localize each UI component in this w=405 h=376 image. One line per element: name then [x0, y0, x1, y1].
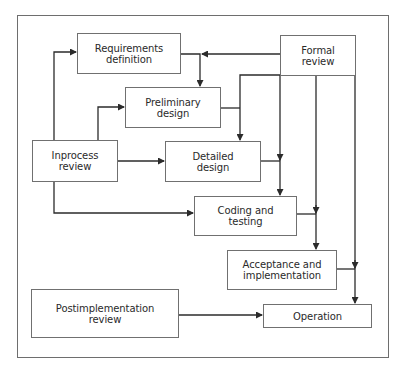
node-acceptance-and-implementation: Acceptance andimplementation: [227, 250, 337, 290]
edge-inprocess-preliminary: [98, 107, 124, 140]
node-label-line: review: [302, 56, 334, 67]
node-label-line: review: [59, 161, 91, 172]
node-label-line: Coding and: [218, 205, 274, 216]
node-coding-and-testing: Coding andtesting: [194, 196, 297, 236]
node-label-line: review: [89, 314, 121, 325]
node-label-line: design: [157, 108, 190, 119]
node-requirements-definition: Requirementsdefinition: [77, 33, 181, 74]
edge-inprocess-requirements: [54, 52, 76, 140]
node-formal-review: Formalreview: [280, 35, 356, 76]
node-label-line: Acceptance and: [243, 259, 322, 270]
node-label-line: Postimplementation: [56, 303, 154, 314]
node-label-line: design: [197, 162, 230, 173]
node-operation: Operation: [263, 304, 372, 328]
edge-inprocess-coding: [54, 182, 193, 213]
review-process-diagram: Requirementsdefinition Formalreview Prel…: [0, 0, 405, 376]
node-preliminary-design: Preliminarydesign: [125, 87, 221, 128]
node-label-line: implementation: [243, 270, 321, 281]
node-postimplementation-review: Postimplementationreview: [31, 289, 179, 338]
node-label-line: Detailed: [192, 151, 233, 162]
node-inprocess-review: Inprocessreview: [32, 140, 118, 182]
node-label-line: Preliminary: [145, 97, 200, 108]
node-detailed-design: Detaileddesign: [165, 141, 261, 182]
edge-requirements-preliminary: [181, 54, 200, 86]
node-label-line: Requirements: [95, 43, 163, 54]
node-label-line: definition: [106, 54, 152, 65]
node-label-line: Inprocess: [52, 150, 99, 161]
node-label-line: Formal: [301, 45, 335, 56]
node-label-line: Operation: [293, 311, 342, 322]
node-label-line: testing: [229, 216, 263, 227]
edge-formal-detailed: [240, 75, 280, 140]
